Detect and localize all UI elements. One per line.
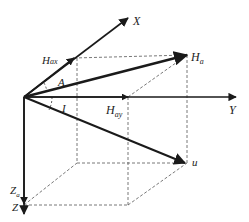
z-a-label: Za: [10, 184, 20, 199]
vectors: [24, 18, 236, 214]
angle-a-label: A: [57, 76, 65, 88]
y-axis-label: Y: [229, 103, 237, 117]
h-a-label: Ha: [190, 50, 204, 66]
z-axis-label: Z: [12, 201, 19, 213]
h-ax-label: Hax: [41, 54, 58, 66]
h-ay-label: Hay: [105, 103, 123, 119]
x-axis-label: X: [132, 14, 141, 28]
angle-i-label: I: [61, 102, 67, 114]
u-label: u: [192, 156, 198, 168]
u-vector: [24, 97, 185, 163]
vector-diagram: X Y Hax Ha Hay u A I Za Z: [0, 0, 249, 222]
